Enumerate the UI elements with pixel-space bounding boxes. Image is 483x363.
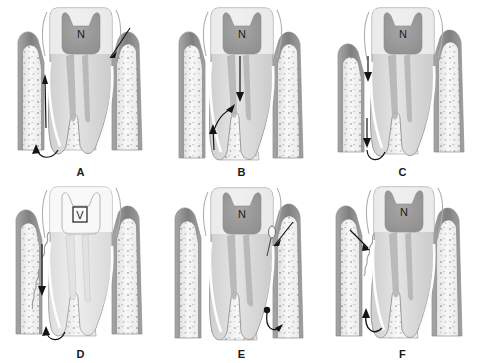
panel-label-d: D xyxy=(0,348,161,360)
panel-e-illustration: N xyxy=(161,182,322,363)
panel-c: N C xyxy=(322,0,483,181)
panel-label-b: B xyxy=(161,166,322,178)
panel-b-illustration: N xyxy=(161,0,322,181)
panel-f: N F xyxy=(322,182,483,363)
panel-e: N E xyxy=(161,182,322,363)
panel-label-f: F xyxy=(322,348,483,360)
panel-label-a: A xyxy=(0,166,161,178)
panel-b: N B xyxy=(161,0,322,181)
pulp-label-c: N xyxy=(399,28,407,40)
panel-label-c: C xyxy=(322,166,483,178)
pulp-label-b: N xyxy=(238,28,246,40)
panel-d-illustration: V xyxy=(0,182,161,363)
panel-c-illustration: N xyxy=(322,0,483,181)
pulp-label-a: N xyxy=(77,28,85,40)
panel-a: N A xyxy=(0,0,161,181)
dental-panels-figure: N A xyxy=(0,0,483,363)
panel-d: V D xyxy=(0,182,161,363)
pulp-label-d: V xyxy=(76,209,84,221)
panel-f-illustration: N xyxy=(322,182,483,363)
lateral-canal-marker-e xyxy=(269,226,276,238)
pulp-label-f: N xyxy=(400,206,408,218)
panel-label-e: E xyxy=(161,348,322,360)
panel-a-illustration: N xyxy=(0,0,161,181)
pulp-label-e: N xyxy=(238,208,246,220)
